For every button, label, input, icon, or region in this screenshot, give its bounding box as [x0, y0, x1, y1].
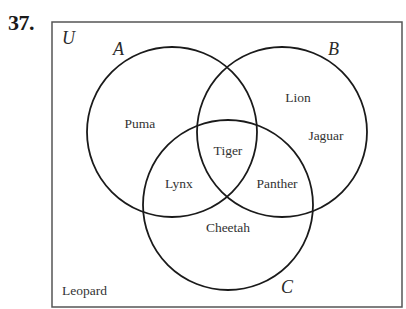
set-c-label: C — [281, 277, 294, 297]
universe-rectangle — [52, 22, 402, 307]
element-puma: Puma — [125, 116, 156, 131]
set-a-circle — [87, 47, 257, 217]
element-tiger: Tiger — [214, 143, 243, 158]
set-a-label: A — [112, 39, 125, 59]
element-panther: Panther — [256, 176, 298, 191]
element-leopard: Leopard — [62, 283, 107, 298]
universe-label: U — [62, 28, 76, 48]
element-lion: Lion — [285, 90, 311, 105]
element-jaguar: Jaguar — [308, 128, 344, 143]
element-lynx: Lynx — [165, 176, 193, 191]
set-b-label: B — [328, 39, 339, 59]
venn-diagram: U A B C Puma Lion Jaguar Tiger Lynx Pant… — [0, 0, 406, 309]
element-cheetah: Cheetah — [206, 220, 250, 235]
